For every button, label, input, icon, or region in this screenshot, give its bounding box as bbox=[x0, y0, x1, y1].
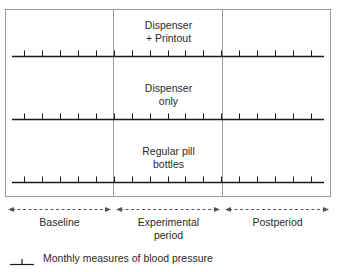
legend-tick-icon bbox=[10, 259, 34, 265]
group-label-line2: only bbox=[114, 95, 223, 108]
timeline-1 bbox=[12, 51, 324, 57]
arrowhead-left-icon bbox=[8, 207, 14, 212]
phase-arrow-postperiod bbox=[225, 207, 329, 212]
arrowhead-right-icon bbox=[323, 207, 329, 212]
legend-text: Monthly measures of blood pressure bbox=[43, 252, 213, 264]
group-label-dispenser-printout: Dispenser + Printout bbox=[114, 19, 223, 45]
timeline-3 bbox=[12, 177, 324, 183]
phase-label-line1: Experimental bbox=[114, 216, 223, 229]
group-label-line1: Dispenser bbox=[114, 19, 223, 32]
phase-label-experimental: Experimental period bbox=[114, 216, 223, 242]
phase-arrow-baseline bbox=[8, 207, 111, 212]
phase-label-line1: Postperiod bbox=[223, 216, 332, 229]
phase-label-postperiod: Postperiod bbox=[223, 216, 332, 229]
phase-label-line2: period bbox=[114, 229, 223, 242]
arrowhead-right-icon bbox=[214, 207, 220, 212]
group-label-line1: Dispenser bbox=[114, 82, 223, 95]
group-label-regular-pill-bottles: Regular pill bottles bbox=[114, 145, 223, 171]
timeline-2 bbox=[12, 114, 324, 120]
arrowhead-left-icon bbox=[116, 207, 122, 212]
phase-label-baseline: Baseline bbox=[5, 216, 114, 229]
group-label-line2: + Printout bbox=[114, 32, 223, 45]
group-label-dispenser-only: Dispenser only bbox=[114, 82, 223, 108]
group-label-line1: Regular pill bbox=[114, 145, 223, 158]
arrowhead-right-icon bbox=[105, 207, 111, 212]
phase-label-line1: Baseline bbox=[5, 216, 114, 229]
group-label-line2: bottles bbox=[114, 158, 223, 171]
phase-arrow-experimental bbox=[116, 207, 220, 212]
arrowhead-left-icon bbox=[225, 207, 231, 212]
